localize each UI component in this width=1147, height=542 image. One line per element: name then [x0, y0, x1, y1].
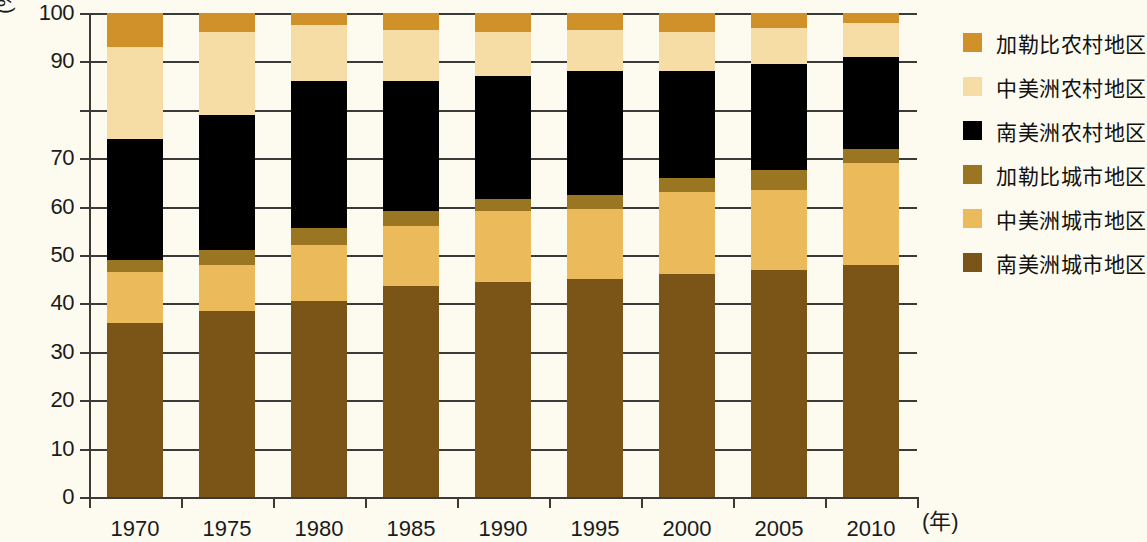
- bar-segment[interactable]: [383, 226, 439, 287]
- legend-item-caribbean_rural[interactable]: 加勒比农村地区: [963, 22, 1143, 63]
- bar-segment[interactable]: [199, 250, 255, 265]
- bar-segment[interactable]: [659, 274, 715, 497]
- x-axis-tick-label-1995: 1995: [550, 516, 640, 542]
- x-axis-tick: [181, 497, 183, 508]
- bar-segment[interactable]: [475, 199, 531, 211]
- y-axis-tick-label: 30: [4, 339, 74, 365]
- y-axis-tick: [80, 352, 89, 354]
- x-axis-tick: [273, 497, 275, 508]
- bar-1990[interactable]: [475, 13, 531, 497]
- bar-segment[interactable]: [659, 32, 715, 71]
- legend-item-label: 中美洲农村地区: [996, 72, 1147, 102]
- legend-item-south_america_rural[interactable]: 南美洲农村地区: [963, 110, 1143, 151]
- y-axis-tick: [80, 110, 89, 112]
- bar-segment[interactable]: [291, 13, 347, 25]
- bar-segment[interactable]: [291, 228, 347, 245]
- bar-1980[interactable]: [291, 13, 347, 497]
- bar-segment[interactable]: [475, 282, 531, 497]
- y-axis-tick-label: 20: [4, 387, 74, 413]
- bar-segment[interactable]: [659, 13, 715, 32]
- y-axis-tick: [80, 303, 89, 305]
- x-axis-tick-label-2005: 2005: [734, 516, 824, 542]
- bar-segment[interactable]: [751, 190, 807, 270]
- bar-segment[interactable]: [567, 71, 623, 194]
- bar-segment[interactable]: [107, 139, 163, 260]
- bar-segment[interactable]: [567, 195, 623, 210]
- bar-segment[interactable]: [475, 211, 531, 281]
- bar-segment[interactable]: [199, 265, 255, 311]
- bar-segment[interactable]: [383, 286, 439, 497]
- bar-1985[interactable]: [383, 13, 439, 497]
- bar-segment[interactable]: [843, 149, 899, 164]
- legend-item-label: 中美洲城市地区: [996, 204, 1147, 234]
- bar-1970[interactable]: [107, 13, 163, 497]
- legend-swatch-icon: [963, 77, 982, 96]
- bar-segment[interactable]: [751, 270, 807, 497]
- bar-segment[interactable]: [659, 178, 715, 193]
- bar-segment[interactable]: [291, 245, 347, 301]
- bar-segment[interactable]: [199, 13, 255, 32]
- bar-segment[interactable]: [567, 30, 623, 71]
- bar-segment[interactable]: [751, 64, 807, 170]
- bar-segment[interactable]: [383, 211, 439, 226]
- legend-item-caribbean_urban[interactable]: 加勒比城市地区: [963, 154, 1143, 195]
- legend-item-label: 南美洲城市地区: [996, 248, 1147, 278]
- plot-area: 1009070605040302010019701975198019851990…: [89, 13, 917, 497]
- bar-2000[interactable]: [659, 13, 715, 497]
- bar-segment[interactable]: [567, 13, 623, 30]
- x-axis-tick-label-1980: 1980: [274, 516, 364, 542]
- bar-segment[interactable]: [107, 323, 163, 497]
- bar-segment[interactable]: [659, 192, 715, 274]
- bar-segment[interactable]: [383, 13, 439, 30]
- bar-segment[interactable]: [107, 260, 163, 272]
- bar-segment[interactable]: [567, 279, 623, 497]
- y-axis-tick: [80, 207, 89, 209]
- x-axis-tick-label-2000: 2000: [642, 516, 732, 542]
- bar-segment[interactable]: [659, 71, 715, 177]
- bar-segment[interactable]: [475, 76, 531, 199]
- bar-segment[interactable]: [383, 81, 439, 212]
- bar-segment[interactable]: [291, 25, 347, 81]
- bar-segment[interactable]: [843, 57, 899, 149]
- bar-segment[interactable]: [567, 209, 623, 279]
- bar-segment[interactable]: [751, 170, 807, 189]
- bar-segment[interactable]: [199, 32, 255, 114]
- legend-item-south_america_urban[interactable]: 南美洲城市地区: [963, 242, 1143, 283]
- bar-segment[interactable]: [751, 28, 807, 64]
- bar-segment[interactable]: [107, 13, 163, 47]
- bar-segment[interactable]: [291, 81, 347, 229]
- x-axis-tick-label-1990: 1990: [458, 516, 548, 542]
- bar-segment[interactable]: [843, 13, 899, 23]
- x-axis-tick: [733, 497, 735, 508]
- bar-segment[interactable]: [291, 301, 347, 497]
- x-axis-unit-label: (年): [922, 503, 959, 535]
- y-axis-tick-label: 90: [4, 48, 74, 74]
- y-axis-tick: [80, 497, 89, 499]
- bar-segment[interactable]: [751, 13, 807, 28]
- y-axis-tick: [80, 400, 89, 402]
- legend-swatch-icon: [963, 209, 982, 228]
- bar-segment[interactable]: [843, 23, 899, 57]
- bar-segment[interactable]: [107, 272, 163, 323]
- bar-segment[interactable]: [383, 30, 439, 81]
- x-axis-tick: [917, 497, 919, 508]
- bar-2005[interactable]: [751, 13, 807, 497]
- bar-segment[interactable]: [199, 311, 255, 497]
- bar-segment[interactable]: [475, 13, 531, 32]
- legend-item-central_america_rural[interactable]: 中美洲农村地区: [963, 66, 1143, 107]
- bar-segment[interactable]: [843, 163, 899, 265]
- x-axis-tick: [89, 497, 91, 508]
- y-axis-tick-label: 50: [4, 242, 74, 268]
- bar-segment[interactable]: [107, 47, 163, 139]
- bar-segment[interactable]: [199, 115, 255, 251]
- bar-segment[interactable]: [843, 265, 899, 497]
- bar-1975[interactable]: [199, 13, 255, 497]
- legend-swatch-icon: [963, 33, 982, 52]
- bar-1995[interactable]: [567, 13, 623, 497]
- bar-segment[interactable]: [475, 32, 531, 76]
- legend-item-label: 加勒比农村地区: [996, 28, 1147, 58]
- legend-item-central_america_urban[interactable]: 中美洲城市地区: [963, 198, 1143, 239]
- chart-legend: 加勒比农村地区中美洲农村地区南美洲农村地区加勒比城市地区中美洲城市地区南美洲城市…: [963, 22, 1143, 286]
- bar-2010[interactable]: [843, 13, 899, 497]
